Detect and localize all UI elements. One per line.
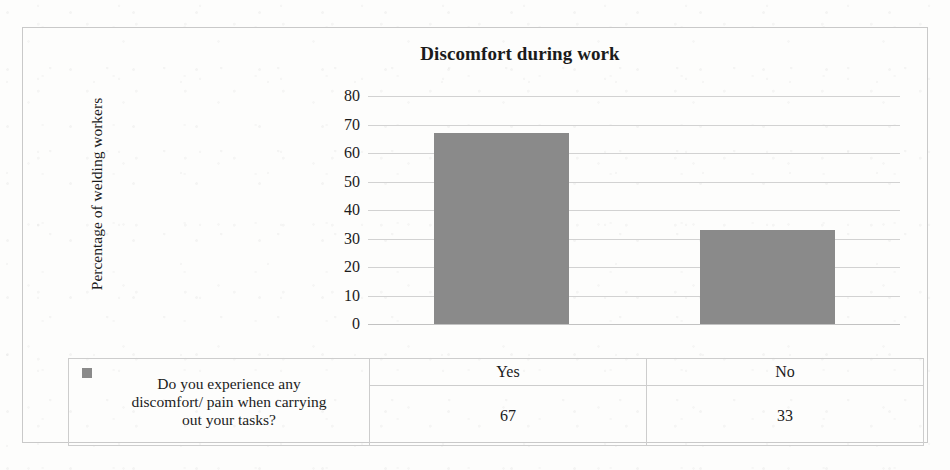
table-row-categories: Do you experience any discomfort/ pain w… — [69, 359, 924, 386]
table-cell-value-no: 33 — [647, 386, 924, 446]
figure-page: Discomfort during work Percentage of wel… — [0, 0, 950, 470]
legend-line-1: Do you experience any — [157, 375, 300, 392]
chart-title: Discomfort during work — [330, 43, 710, 65]
y-tick-label-20: 20 — [320, 259, 360, 275]
y-axis-title: Percentage of welding workers — [88, 59, 106, 329]
gridline-0 — [368, 324, 900, 325]
legend-swatch-icon — [82, 368, 92, 378]
legend-line-3: out your tasks? — [182, 411, 276, 428]
gridline-80 — [368, 96, 900, 97]
y-tick-label-80: 80 — [320, 88, 360, 104]
y-tick-label-10: 10 — [320, 288, 360, 304]
plot-area — [368, 96, 900, 324]
legend-cell: Do you experience any discomfort/ pain w… — [69, 359, 370, 446]
table-cell-category-yes: Yes — [370, 359, 647, 386]
y-tick-label-0: 0 — [320, 316, 360, 332]
y-tick-label-40: 40 — [320, 202, 360, 218]
bar-yes — [434, 133, 569, 324]
table-cell-category-no: No — [647, 359, 924, 386]
bar-no — [700, 230, 835, 324]
legend-label: Do you experience any discomfort/ pain w… — [69, 375, 369, 430]
gridline-70 — [368, 125, 900, 126]
data-table: Do you experience any discomfort/ pain w… — [68, 358, 924, 446]
table-cell-value-yes: 67 — [370, 386, 647, 446]
y-axis-tick-labels: 80706050403020100 — [320, 96, 360, 324]
y-tick-label-30: 30 — [320, 231, 360, 247]
y-tick-label-70: 70 — [320, 117, 360, 133]
y-tick-label-60: 60 — [320, 145, 360, 161]
y-tick-label-50: 50 — [320, 174, 360, 190]
legend-line-2: discomfort/ pain when carrying — [132, 393, 327, 410]
